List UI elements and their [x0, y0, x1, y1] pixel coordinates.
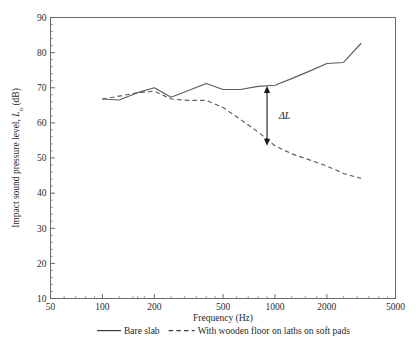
series-line-1 [102, 91, 360, 178]
x-axis-title: Frequency (Hz) [193, 313, 253, 324]
x-tick-label-100: 100 [95, 302, 110, 312]
chart-canvas: 102030405060708090 501002005001000200050… [0, 0, 420, 343]
delta-l-arrow-head-top [264, 86, 270, 93]
x-tick-label-50: 50 [46, 302, 56, 312]
y-axis: 102030405060708090 [37, 13, 55, 304]
y-tick-label-70: 70 [37, 83, 47, 93]
delta-l-label: ΔL [278, 110, 291, 121]
x-tick-label-500: 500 [216, 302, 231, 312]
y-axis-title-main: Impact sound pressure level, [11, 117, 21, 228]
data-series-group [102, 43, 360, 178]
chart-legend: Bare slabWith wooden floor on laths on s… [97, 326, 350, 336]
legend-label-1: With wooden floor on laths on soft pads [198, 326, 351, 336]
y-tick-label-50: 50 [37, 153, 47, 163]
x-tick-label-5000: 5000 [386, 302, 405, 312]
y-axis-title-unit: (dB) [11, 88, 22, 108]
y-tick-label-40: 40 [37, 188, 47, 198]
delta-l-arrow-head-bottom [264, 139, 270, 146]
plot-frame [51, 18, 396, 299]
delta-l-annotation: ΔL [264, 86, 291, 146]
x-tick-label-1000: 1000 [265, 302, 284, 312]
x-tick-label-200: 200 [147, 302, 162, 312]
x-tick-label-2000: 2000 [317, 302, 336, 312]
y-tick-label-60: 60 [37, 118, 47, 128]
y-tick-label-90: 90 [37, 13, 47, 23]
impact-sound-pressure-level-chart: 102030405060708090 501002005001000200050… [0, 0, 420, 343]
series-line-0 [102, 43, 360, 100]
legend-label-0: Bare slab [124, 326, 160, 336]
y-tick-label-80: 80 [37, 48, 47, 58]
y-tick-label-30: 30 [37, 224, 47, 234]
y-tick-label-20: 20 [37, 259, 47, 269]
x-axis: 50100200500100020005000 [46, 294, 406, 312]
svg-text:Impact sound pressure level, L: Impact sound pressure level, Ln (dB) [11, 88, 25, 228]
y-axis-title: Impact sound pressure level, Ln (dB) [11, 88, 25, 228]
